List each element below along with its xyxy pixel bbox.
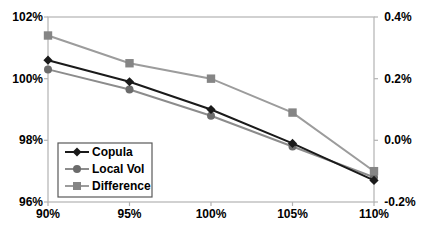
left-axis-label-102: 102% bbox=[12, 10, 43, 24]
square-marker-difference bbox=[207, 74, 215, 82]
legend-local-vol-circle-icon bbox=[73, 165, 81, 173]
legend-difference-square-icon bbox=[73, 182, 81, 190]
legend: Copula Local Vol Difference bbox=[58, 143, 152, 197]
diamond-marker-copula bbox=[43, 56, 52, 65]
circle-marker-local-vol bbox=[126, 85, 134, 93]
circle-marker-local-vol bbox=[44, 65, 52, 73]
right-axis-label-00: 0.0% bbox=[384, 133, 412, 147]
x-axis-label-90: 90% bbox=[36, 207, 60, 221]
x-axis-label-110: 110% bbox=[359, 207, 389, 221]
legend-difference-label: Difference bbox=[92, 179, 151, 193]
right-axis-label-04: 0.4% bbox=[384, 10, 412, 24]
legend-copula-label: Copula bbox=[92, 145, 133, 159]
left-axis-labels: 102% 100% 98% 96% bbox=[12, 10, 43, 209]
square-marker-difference bbox=[125, 59, 133, 67]
square-marker-difference bbox=[288, 108, 296, 116]
left-axis-label-100: 100% bbox=[12, 72, 43, 86]
square-marker-difference bbox=[370, 167, 378, 175]
legend-local-vol-label: Local Vol bbox=[92, 162, 144, 176]
chart-container: 102% 100% 98% 96% 0.4% 0.2% 0.0% -0.2% 9… bbox=[0, 0, 425, 233]
right-axis-label-neg02: -0.2% bbox=[384, 195, 416, 209]
x-axis-label-105: 105% bbox=[277, 207, 308, 221]
square-marker-difference bbox=[44, 31, 52, 39]
diamond-marker-copula bbox=[206, 105, 215, 114]
left-axis-label-98: 98% bbox=[19, 133, 43, 147]
x-axis-label-100: 100% bbox=[196, 207, 227, 221]
right-axis-labels: 0.4% 0.2% 0.0% -0.2% bbox=[384, 10, 416, 209]
diamond-marker-copula bbox=[125, 77, 134, 86]
x-axis-label-95: 95% bbox=[117, 207, 141, 221]
right-axis-label-02: 0.2% bbox=[384, 72, 412, 86]
x-axis-labels: 90% 95% 100% 105% 110% bbox=[36, 207, 389, 221]
x-axis-ticks bbox=[48, 202, 374, 206]
line-chart: 102% 100% 98% 96% 0.4% 0.2% 0.0% -0.2% 9… bbox=[0, 0, 425, 233]
